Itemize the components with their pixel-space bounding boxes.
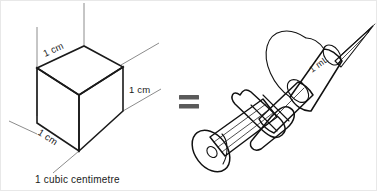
barrel bbox=[266, 31, 344, 111]
thumb-press-disc bbox=[184, 123, 237, 179]
cube-label-front-bottom-edge: 1 cm bbox=[36, 126, 60, 147]
cube-caption: 1 cubic centimetre bbox=[35, 174, 120, 185]
figure-root: 1 cm 1 cm 1 cm 1 cubic centimetre bbox=[0, 0, 377, 191]
axis-upper-right bbox=[121, 43, 159, 65]
cube-face-right-shaded bbox=[79, 67, 123, 151]
cube-label-right-edge: 1 cm bbox=[129, 84, 150, 95]
syringe-group: 1 mL bbox=[184, 24, 375, 179]
needle-hub-ridge bbox=[338, 32, 369, 63]
equals-bar-top bbox=[179, 95, 199, 100]
equals-sign bbox=[179, 95, 199, 109]
figure-canvas: 1 cm 1 cm 1 cm 1 cubic centimetre bbox=[1, 1, 377, 191]
cube-group: 1 cm 1 cm 1 cm 1 cubic centimetre bbox=[9, 3, 161, 185]
equals-bar-bottom bbox=[179, 104, 199, 109]
syringe-volume-label: 1 mL bbox=[307, 54, 330, 75]
thumb-press bbox=[184, 123, 237, 179]
axis-lower-right bbox=[53, 151, 79, 173]
axis-lower-left bbox=[9, 121, 37, 134]
